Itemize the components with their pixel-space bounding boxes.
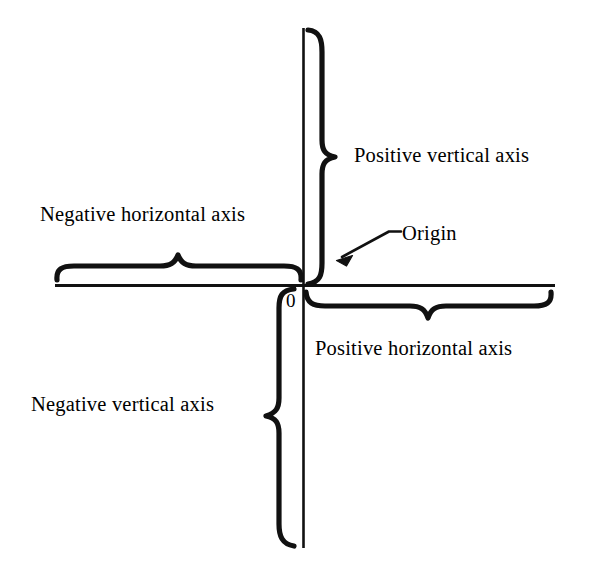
label-origin: Origin (402, 222, 457, 245)
positive-vertical-brace (308, 30, 335, 284)
origin-leader-arrow (337, 232, 402, 267)
negative-vertical-brace (266, 289, 294, 546)
coordinate-axes-diagram: Positive vertical axis Negative horizont… (0, 0, 592, 567)
label-negative-horizontal-axis: Negative horizontal axis (40, 203, 245, 226)
label-origin-zero: 0 (286, 290, 296, 312)
label-positive-horizontal-axis: Positive horizontal axis (315, 337, 512, 360)
diagram-canvas (0, 0, 592, 567)
positive-horizontal-brace (306, 292, 551, 318)
label-positive-vertical-axis: Positive vertical axis (354, 144, 529, 167)
negative-horizontal-brace (57, 255, 301, 280)
axes-group (55, 28, 555, 548)
label-negative-vertical-axis: Negative vertical axis (31, 393, 214, 416)
